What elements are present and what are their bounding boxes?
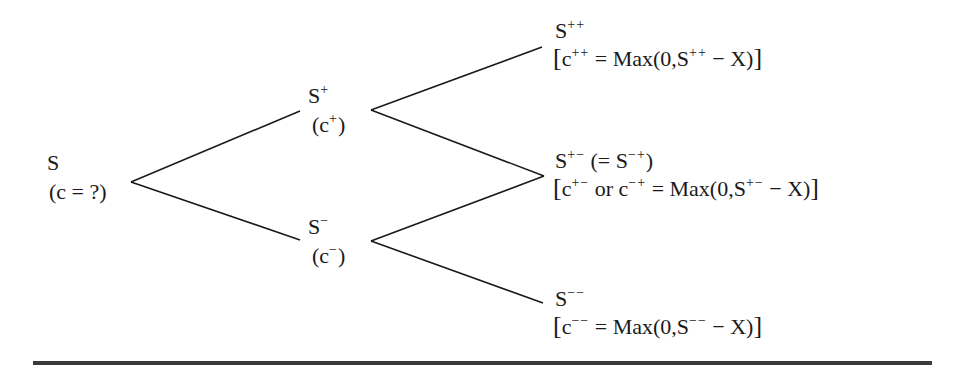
node-updown-payoff: [c+− or c−+ = Max(0,S+− − X)] — [553, 175, 819, 205]
edge-up-upup — [371, 47, 542, 110]
node-down-value: (c−) — [312, 243, 345, 272]
edge-root-up — [131, 111, 300, 182]
bottom-rule-divider — [33, 361, 932, 365]
node-down-price: S− — [308, 214, 329, 243]
node-downdown-payoff: [c−− = Max(0,S−− − X)] — [553, 313, 762, 343]
node-root-price: S — [47, 150, 59, 176]
node-up-value: (c+) — [312, 112, 345, 141]
node-updown-price: S+− (= S−+) — [555, 148, 653, 177]
node-up-price: S+ — [308, 83, 329, 112]
node-root-value: (c = ?) — [49, 179, 107, 205]
edge-root-down — [131, 182, 300, 240]
edge-down-downdown — [371, 241, 543, 303]
node-upup-payoff: [c++ = Max(0,S++ − X)] — [553, 45, 762, 75]
edge-down-updown — [371, 176, 544, 241]
edge-up-updown — [371, 110, 544, 176]
